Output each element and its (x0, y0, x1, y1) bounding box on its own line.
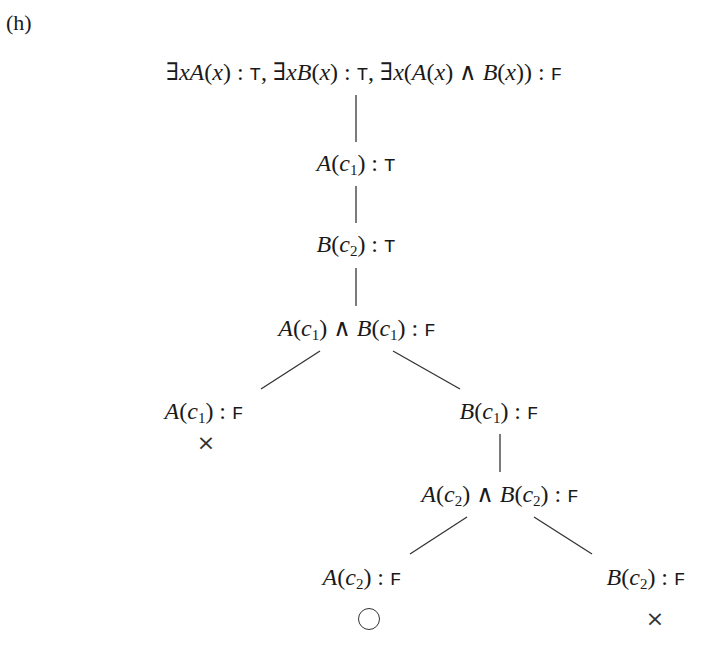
edge-n6-n7 (410, 517, 467, 554)
tree-node-n3: A(c1) ∧ B(c1) : F (278, 316, 435, 343)
edge-n3-n4 (261, 351, 320, 389)
open-branch-circle-icon (358, 608, 380, 630)
edge-n3-n5 (393, 351, 460, 389)
tree-node-n2: B(c2) : T (317, 232, 396, 259)
tree-node-n6: A(c2) ∧ B(c2) : F (421, 482, 578, 509)
tree-node-root: ∃xA(x) : T, ∃xB(x) : T, ∃x(A(x) ∧ B(x)) … (166, 60, 562, 85)
tree-node-n5: B(c1) : F (460, 399, 539, 426)
closed-branch-cross-icon: × (197, 432, 215, 454)
tree-node-n4: A(c1) : F (165, 399, 244, 426)
edge-n6-n8 (534, 517, 592, 554)
tree-node-n8: B(c2) : F (607, 565, 686, 592)
closed-branch-cross-icon: × (646, 608, 664, 630)
tree-node-n1: A(c1) : T (317, 151, 396, 178)
tree-node-n7: A(c2) : F (323, 565, 402, 592)
